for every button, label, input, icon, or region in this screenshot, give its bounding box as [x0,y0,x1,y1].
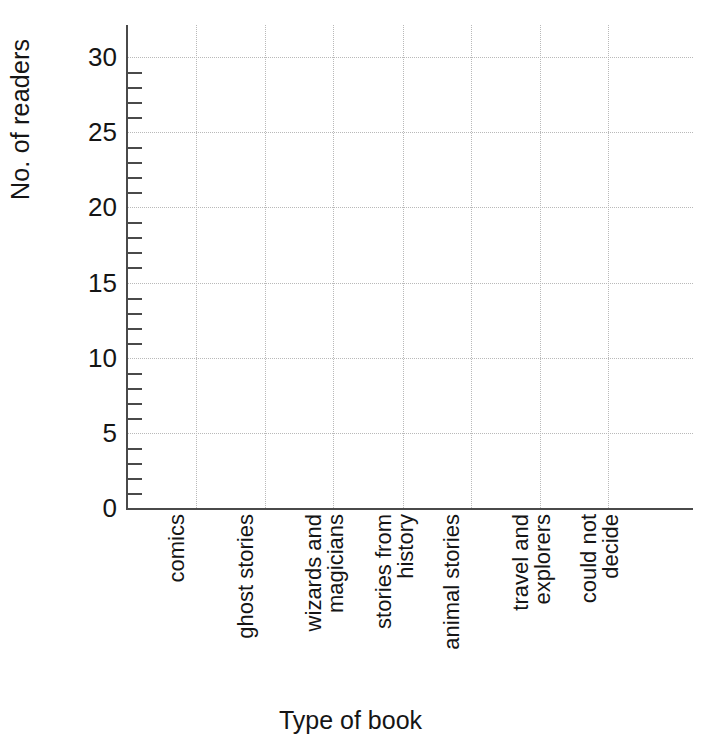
y-axis-minor-tick [128,328,142,330]
y-axis-title-text: No. of readers [6,39,35,200]
y-axis-minor-tick [128,192,142,194]
x-axis-category-label: animal stories [440,514,464,650]
y-axis-tick-label: 10 [67,345,117,371]
y-axis-minor-tick [128,177,142,179]
x-axis-category-label: explorers [531,514,555,604]
y-axis-minor-tick [128,162,142,164]
y-axis-minor-tick [128,343,142,345]
y-axis-tick-label: 30 [67,44,117,70]
plot-area [127,25,693,508]
gridline-vertical [265,25,266,508]
y-axis-title: No. of readers [0,0,40,200]
y-axis-minor-tick [128,388,142,390]
y-axis-tick-label: 20 [67,194,117,220]
gridline-vertical [196,25,197,508]
gridline-vertical [471,25,472,508]
y-axis-minor-tick [128,448,142,450]
x-axis-category-label: ghost stories [234,514,258,639]
y-axis-minor-tick [128,298,142,300]
gridline-vertical [540,25,541,508]
y-axis-tick-label: 0 [67,495,117,521]
x-axis-category-label: history [394,514,418,579]
x-axis-category-label: comics [165,514,189,582]
gridline-vertical [608,25,609,508]
y-axis-minor-tick [128,72,142,74]
y-axis-minor-tick [128,313,142,315]
y-axis-minor-tick [128,102,142,104]
y-axis-minor-tick [128,237,142,239]
x-axis-title-text: Type of book [279,706,422,734]
x-axis-category-label: decide [599,514,623,579]
y-axis-tick-labels: 051015202530 [55,0,117,560]
y-axis-minor-tick [128,493,142,495]
x-axis-title: Type of book [0,706,701,734]
y-axis-minor-tick [128,463,142,465]
y-axis-minor-tick [128,478,142,480]
y-axis-minor-tick [128,403,142,405]
y-axis-minor-tick [128,267,142,269]
x-axis-category-label: magicians [324,514,348,613]
y-axis-tick-label: 5 [67,420,117,446]
y-axis-minor-tick [128,147,142,149]
gridline-vertical [333,25,334,508]
y-axis-minor-tick [128,87,142,89]
x-axis-line [126,508,693,510]
y-axis-minor-tick [128,418,142,420]
y-axis-minor-tick [128,252,142,254]
y-axis-tick-label: 15 [67,270,117,296]
y-axis-minor-tick [128,373,142,375]
gridline-vertical [403,25,404,508]
y-axis-minor-tick [128,222,142,224]
y-axis-tick-label: 25 [67,119,117,145]
y-axis-minor-tick [128,117,142,119]
